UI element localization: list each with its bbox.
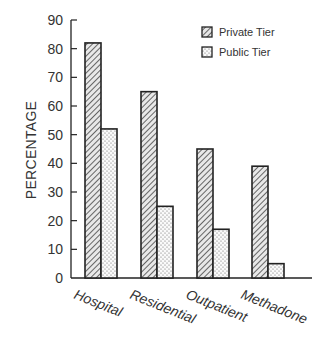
bar-private-tier-hospital xyxy=(85,43,101,278)
bar-private-tier-residential xyxy=(141,92,157,278)
legend-label: Public Tier xyxy=(219,46,271,58)
bar-public-tier-outpatient xyxy=(213,229,229,278)
legend-swatch xyxy=(202,47,212,57)
bar-public-tier-residential xyxy=(157,206,173,278)
y-axis-label: PERCENTAGE xyxy=(23,101,39,199)
legend-label: Private Tier xyxy=(219,26,275,38)
y-tick-label: 50 xyxy=(47,127,63,143)
y-tick-label: 60 xyxy=(47,98,63,114)
category-label: Methadone xyxy=(239,286,310,327)
category-label: Hospital xyxy=(72,286,126,320)
y-tick-label: 90 xyxy=(47,12,63,28)
legend-swatch xyxy=(202,27,212,37)
y-tick-label: 30 xyxy=(47,184,63,200)
bar-chart: 0102030405060708090 HospitalResidentialO… xyxy=(0,0,327,337)
bar-public-tier-methadone xyxy=(268,264,284,278)
bar-public-tier-hospital xyxy=(101,129,117,278)
category-labels: HospitalResidentialOutpatientMethadone xyxy=(72,286,310,327)
y-tick-label: 10 xyxy=(47,241,63,257)
bar-private-tier-outpatient xyxy=(197,149,213,278)
y-tick-label: 80 xyxy=(47,41,63,57)
bars xyxy=(85,43,284,278)
y-tick-label: 70 xyxy=(47,69,63,85)
y-tick-label: 40 xyxy=(47,155,63,171)
legend: Private TierPublic Tier xyxy=(202,26,275,58)
bar-private-tier-methadone xyxy=(252,166,268,278)
y-tick-label: 0 xyxy=(55,270,63,286)
y-tick-label: 20 xyxy=(47,213,63,229)
